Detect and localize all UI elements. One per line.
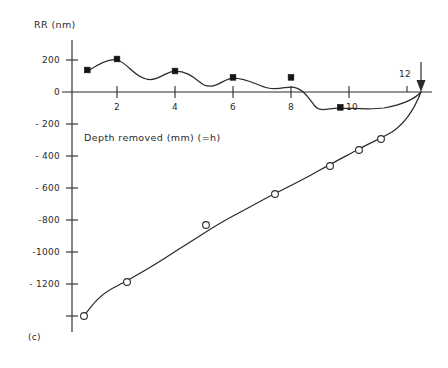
y-tick-label-m400: - 400 bbox=[35, 151, 60, 161]
lower-branch-curve bbox=[84, 92, 421, 316]
x-tick-label-2: 2 bbox=[114, 102, 120, 112]
y-tick-label-m800: -800 bbox=[38, 215, 60, 225]
arrow-value-label: 12 bbox=[399, 69, 411, 79]
figure-panel-c: 200 0 - 200 - 400 - 600 -800 -1000 - 120… bbox=[0, 0, 448, 368]
depth-marker-arrow bbox=[417, 62, 426, 92]
y-tick-label-200: 200 bbox=[42, 55, 60, 65]
y-tick-label-0: 0 bbox=[54, 87, 60, 97]
y-tick-label-m200: - 200 bbox=[35, 119, 60, 129]
panel-label: (c) bbox=[28, 332, 41, 342]
y-tick-label-m600: - 600 bbox=[35, 183, 60, 193]
y-axis-title: RR (nm) bbox=[34, 19, 76, 30]
x-tick-label-8: 8 bbox=[288, 102, 294, 112]
upper-branch-curve bbox=[88, 60, 421, 110]
x-tick-label-6: 6 bbox=[230, 102, 236, 112]
y-tick-label-m1000: -1000 bbox=[32, 247, 60, 257]
x-tick-label-10: 10 bbox=[346, 102, 358, 112]
y-tick-label-m1200: - 1200 bbox=[29, 279, 60, 289]
lower-branch-markers bbox=[81, 136, 385, 320]
x-tick-label-4: 4 bbox=[172, 102, 178, 112]
upper-branch-markers bbox=[85, 56, 344, 110]
chart-canvas: 200 0 - 200 - 400 - 600 -800 -1000 - 120… bbox=[0, 0, 448, 368]
x-axis-title: Depth removed (mm) (=h) bbox=[84, 132, 221, 143]
